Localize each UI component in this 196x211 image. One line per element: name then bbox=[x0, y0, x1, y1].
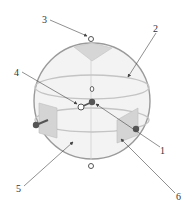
bottom-pole-node bbox=[89, 164, 94, 169]
diagram-canvas: 1 2 3 4 5 6 bbox=[0, 0, 196, 211]
leader-5 bbox=[24, 142, 73, 186]
label-2: 2 bbox=[153, 23, 158, 34]
label-4: 4 bbox=[14, 67, 19, 78]
center-open-node bbox=[78, 104, 84, 110]
top-pole-node bbox=[89, 37, 94, 42]
center-filled-node bbox=[89, 99, 95, 105]
label-3: 3 bbox=[42, 14, 47, 25]
leader-3 bbox=[50, 20, 87, 36]
label-6: 6 bbox=[176, 191, 181, 202]
sphere-diagram: 1 2 3 4 5 6 bbox=[0, 0, 196, 211]
upper-small-node bbox=[90, 87, 94, 92]
leader-6 bbox=[121, 139, 175, 193]
right-node bbox=[133, 126, 139, 132]
label-1: 1 bbox=[160, 145, 165, 156]
left-node bbox=[33, 122, 39, 128]
label-5: 5 bbox=[16, 183, 21, 194]
